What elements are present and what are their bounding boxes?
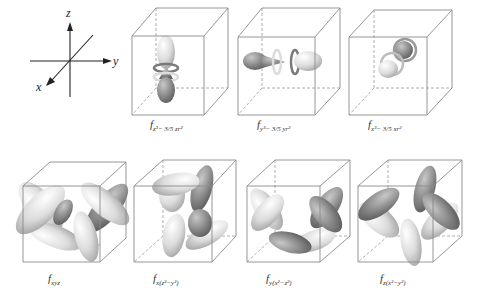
label-fxyz: fxyz xyxy=(48,272,60,287)
label-fz3: fz³− 3/5 zr² xyxy=(150,118,183,133)
orbital-fy-x2-z2 xyxy=(244,160,350,262)
label-fy-x2-z2: fy(x²−z²) xyxy=(266,272,292,287)
x-axis-label: x xyxy=(35,80,42,94)
label-fx-z2-y2: fx(z²−y²) xyxy=(153,272,179,287)
f-orbital-diagram: z y x xyxy=(0,0,485,298)
orbital-fx-z2-y2 xyxy=(134,160,236,262)
z-axis-label: z xyxy=(65,6,71,20)
y-arrow-icon xyxy=(103,58,112,64)
orbital-fz-x2-y2 xyxy=(353,160,466,268)
z-arrow-icon xyxy=(67,22,73,31)
orbital-fy3 xyxy=(238,8,340,115)
coordinate-axes: z y x xyxy=(30,6,119,97)
y-axis-label: y xyxy=(112,54,119,68)
orbital-fz3 xyxy=(132,8,228,115)
label-fz-x2-y2: fz(x²−y²) xyxy=(380,272,406,287)
orbital-fxyz xyxy=(8,162,136,264)
orbital-fx3 xyxy=(349,10,452,115)
label-fy3: fy³− 3/5 yr² xyxy=(257,118,290,133)
label-fx3: fx³− 3/5 xr² xyxy=(368,118,401,133)
